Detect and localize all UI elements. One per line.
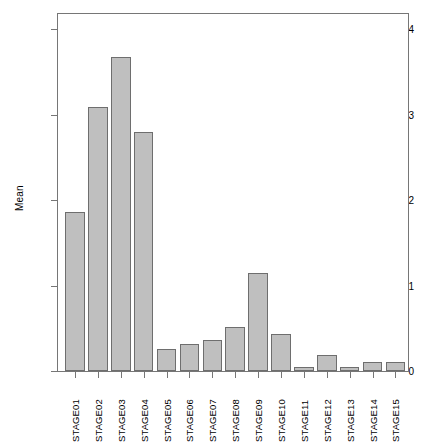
x-tick-mark [304, 372, 305, 378]
x-tick-label-stage03: STAGE03 [116, 382, 127, 442]
x-tick-mark [189, 372, 190, 378]
x-tick-label-stage07: STAGE07 [207, 382, 218, 442]
x-tick-mark [98, 372, 99, 378]
bar-stage06 [180, 344, 200, 371]
x-tick-mark [167, 372, 168, 378]
x-tick-mark [212, 372, 213, 378]
x-tick-mark [395, 372, 396, 378]
bar-stage08 [225, 327, 245, 371]
x-tick-label-stage10: STAGE10 [276, 382, 287, 442]
bars-layer [57, 13, 409, 371]
x-tick-mark [121, 372, 122, 378]
x-tick-mark [281, 372, 282, 378]
y-axis-title: Mean [8, 168, 30, 228]
x-tick-mark [144, 372, 145, 378]
x-tick-label-stage04: STAGE04 [139, 382, 150, 442]
bar-stage05 [157, 349, 177, 371]
bar-stage14 [363, 362, 383, 371]
x-tick-label-stage05: STAGE05 [162, 382, 173, 442]
x-axis-line [57, 371, 409, 372]
bar-stage12 [317, 355, 337, 371]
bar-stage02 [88, 107, 108, 371]
x-tick-label-stage13: STAGE13 [345, 382, 356, 442]
x-tick-label-stage06: STAGE06 [184, 382, 195, 442]
x-tick-mark [258, 372, 259, 378]
x-tick-mark [350, 372, 351, 378]
bar-stage07 [203, 340, 223, 371]
bar-stage15 [386, 362, 406, 371]
x-tick-mark [235, 372, 236, 378]
x-tick-mark [373, 372, 374, 378]
x-tick-label-stage11: STAGE11 [299, 382, 310, 442]
x-tick-label-stage15: STAGE15 [390, 382, 401, 442]
x-tick-label-stage14: STAGE14 [368, 382, 379, 442]
bar-chart-figure: Mean 01234 STAGE01STAGE02STAGE03STAGE04S… [0, 0, 423, 446]
x-tick-label-stage08: STAGE08 [230, 382, 241, 442]
bar-stage03 [111, 57, 131, 371]
bar-stage01 [65, 212, 85, 371]
x-tick-label-stage01: STAGE01 [70, 382, 81, 442]
bar-stage04 [134, 132, 154, 371]
x-tick-mark [327, 372, 328, 378]
x-tick-label-stage02: STAGE02 [93, 382, 104, 442]
bar-stage09 [248, 273, 268, 371]
bar-stage10 [271, 334, 291, 371]
x-tick-label-stage12: STAGE12 [322, 382, 333, 442]
x-tick-mark [75, 372, 76, 378]
x-tick-label-stage09: STAGE09 [253, 382, 264, 442]
